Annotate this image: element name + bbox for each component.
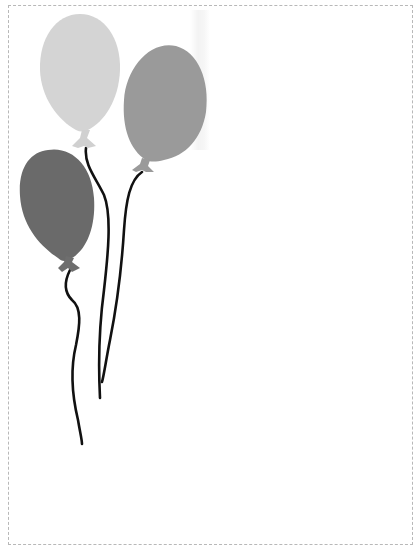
medium-balloon-string [102, 172, 142, 382]
light-balloon [40, 14, 120, 148]
dark-balloon [20, 149, 94, 272]
balloon-illustration [0, 0, 418, 548]
dark-balloon-string [66, 270, 82, 444]
light-balloon-knot [72, 130, 96, 148]
medium-balloon [124, 45, 207, 172]
